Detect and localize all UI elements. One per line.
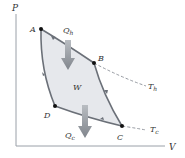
p-axis-label: P bbox=[11, 3, 19, 13]
point-d bbox=[53, 104, 57, 108]
point-c-label: C bbox=[117, 133, 123, 142]
point-a-label: A bbox=[29, 25, 36, 34]
point-d-label: D bbox=[43, 111, 51, 120]
point-b-label: B bbox=[97, 54, 104, 63]
isotherm-hot-dashed bbox=[94, 63, 146, 86]
isotherm-cold-dashed bbox=[122, 126, 146, 130]
point-b bbox=[92, 61, 96, 65]
carnot-pv-diagram: P V A B C D Qh Qc W Th Tc bbox=[0, 0, 185, 158]
point-a bbox=[39, 27, 43, 31]
work-label: W bbox=[73, 83, 82, 92]
v-axis-label: V bbox=[169, 142, 177, 152]
isotherm-hot-label: Th bbox=[148, 82, 157, 92]
work-area bbox=[41, 29, 122, 126]
heat-in-label: Qh bbox=[63, 26, 74, 36]
heat-out-label: Qc bbox=[65, 131, 76, 141]
point-c bbox=[120, 124, 124, 128]
isotherm-cold-label: Tc bbox=[150, 125, 159, 135]
